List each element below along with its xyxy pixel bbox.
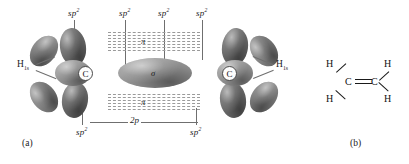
panel-b: H H C C H H (b)	[0, 0, 409, 164]
lewis-bond-c-h-top-right	[379, 71, 389, 80]
lewis-hydrogen-bottom-left: H	[326, 93, 333, 104]
sigma-symbol-center: σ	[151, 68, 155, 78]
carbon-atom-right: C	[222, 66, 237, 81]
lewis-carbon-right: C	[371, 76, 378, 87]
lewis-bond-c-h-bottom-left	[335, 90, 345, 99]
carbon-atom-left: C	[78, 66, 93, 81]
lewis-hydrogen-top-right: H	[384, 58, 391, 69]
caption-panel-b: (b)	[350, 139, 361, 149]
pi-symbol-upper: π	[141, 36, 145, 46]
lewis-carbon-left: C	[345, 76, 352, 87]
pi-symbol-lower: π	[141, 97, 145, 107]
ethene-orbital-figure: sp2 sp2 sp2 sp2 sp2 sp2 2p π π	[0, 0, 409, 164]
lewis-hydrogen-top-left: H	[326, 58, 333, 69]
lewis-double-bond-upper	[355, 79, 372, 80]
lewis-bond-c-h-top-left	[336, 63, 346, 72]
lewis-bond-c-h-bottom-right	[378, 82, 388, 91]
lewis-hydrogen-bottom-right: H	[384, 93, 391, 104]
lewis-double-bond-lower	[355, 83, 372, 84]
